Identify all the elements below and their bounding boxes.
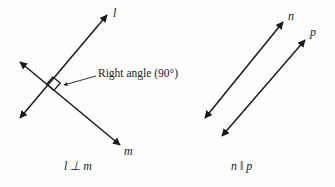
caption-parallel: n ‖ p (231, 160, 252, 172)
line-label-m: m (124, 145, 133, 157)
geometry-figure: l m n p Right angle (90°) l ⊥ m n ‖ p (0, 0, 335, 187)
perpendicular-lines-group (20, 15, 120, 145)
parallel-lines-group (205, 22, 305, 136)
line-p (222, 40, 305, 136)
diagram-canvas (0, 0, 335, 187)
line-n (205, 22, 283, 118)
line-label-l: l (113, 7, 116, 19)
annotation-pointer-icon (64, 76, 96, 85)
line-l (20, 15, 107, 118)
caption-perpendicular: l ⊥ m (64, 160, 92, 172)
line-label-n: n (288, 10, 294, 22)
right-angle-annotation-text: Right angle (90°) (98, 68, 178, 80)
line-label-p: p (310, 26, 316, 38)
